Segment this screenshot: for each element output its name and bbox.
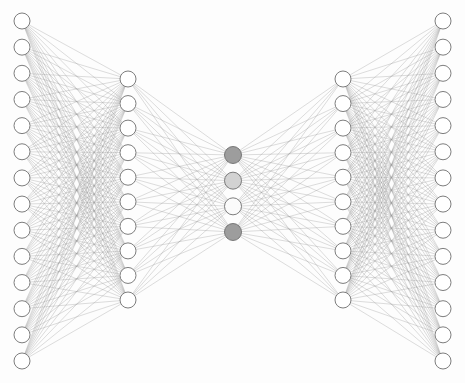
edge [128, 79, 233, 181]
node-input-layer-6 [14, 144, 30, 160]
edge [233, 206, 343, 300]
edge [128, 155, 233, 177]
edge [343, 177, 443, 308]
edge [233, 177, 343, 232]
edge [233, 153, 343, 232]
node-input-layer-11 [14, 275, 30, 291]
edge [22, 79, 128, 335]
node-output-layer-12 [435, 301, 451, 317]
edge [343, 21, 443, 251]
node-hidden-layer-2-6 [335, 194, 351, 210]
edge [233, 177, 343, 206]
edge [343, 202, 443, 335]
node-input-layer-5 [14, 118, 30, 134]
edge [233, 232, 343, 275]
node-hidden-layer-2-9 [335, 267, 351, 283]
node-hidden-layer-1-2 [120, 96, 136, 112]
node-output-layer-10 [435, 248, 451, 264]
node-hidden-layer-2-5 [335, 169, 351, 185]
edge [22, 177, 128, 178]
edge [128, 202, 233, 207]
edge [128, 104, 233, 155]
node-hidden-layer-1-4 [120, 145, 136, 161]
network-canvas [0, 0, 465, 383]
edge [233, 232, 343, 300]
edge [233, 153, 343, 207]
node-input-layer-12 [14, 301, 30, 317]
edge [233, 153, 343, 181]
edge [128, 206, 233, 300]
edge [128, 232, 233, 251]
node-input-layer-4 [14, 91, 30, 107]
node-hidden-layer-2-3 [335, 120, 351, 136]
edge [128, 232, 233, 300]
edge [233, 232, 343, 251]
edge [22, 79, 128, 99]
node-bottleneck-layer-1 [225, 147, 242, 164]
edge [233, 155, 343, 251]
node-output-layer-7 [435, 170, 451, 186]
node-output-layer-4 [435, 91, 451, 107]
edge [22, 47, 128, 128]
edge [128, 206, 233, 251]
node-input-layer-1 [14, 13, 30, 29]
edge [233, 104, 343, 155]
node-hidden-layer-1-9 [120, 267, 136, 283]
edge [343, 73, 443, 201]
edge [233, 128, 343, 181]
node-input-layer-8 [14, 196, 30, 212]
node-output-layer-3 [435, 65, 451, 81]
node-hidden-layer-1-5 [120, 169, 136, 185]
edge [128, 155, 233, 275]
node-output-layer-11 [435, 275, 451, 291]
edge [233, 79, 343, 206]
edge [22, 300, 128, 361]
edge [128, 177, 233, 232]
edge [22, 202, 128, 257]
edge [22, 152, 128, 153]
node-output-layer-6 [435, 144, 451, 160]
edge [128, 181, 233, 227]
node-output-layer-2 [435, 39, 451, 55]
node-input-layer-7 [14, 170, 30, 186]
node-output-layer-14 [435, 353, 451, 369]
edge [233, 79, 343, 181]
edge [343, 178, 443, 202]
edge [22, 177, 128, 308]
node-input-layer-3 [14, 65, 30, 81]
node-hidden-layer-1-6 [120, 194, 136, 210]
node-hidden-layer-2-1 [335, 71, 351, 87]
edge [343, 283, 443, 300]
edge [343, 300, 443, 361]
node-bottleneck-layer-3 [225, 198, 242, 215]
node-hidden-layer-1-3 [120, 120, 136, 136]
node-hidden-layer-2-2 [335, 96, 351, 112]
node-hidden-layer-1-10 [120, 292, 136, 308]
edge [128, 79, 233, 232]
node-hidden-layer-1-8 [120, 243, 136, 259]
node-bottleneck-layer-4 [225, 224, 242, 241]
node-input-layer-14 [14, 353, 30, 369]
neural-network-diagram [0, 0, 465, 383]
node-hidden-layer-1-7 [120, 218, 136, 234]
edge [22, 73, 128, 128]
edges-group [22, 21, 443, 361]
edge [233, 104, 343, 232]
edge [343, 21, 443, 153]
node-input-layer-2 [14, 39, 30, 55]
edge [343, 73, 443, 226]
edge [343, 202, 443, 257]
node-output-layer-1 [435, 13, 451, 29]
edge [22, 73, 128, 201]
edge [128, 128, 233, 155]
node-hidden-layer-2-10 [335, 292, 351, 308]
node-hidden-layer-2-8 [335, 243, 351, 259]
edge [128, 177, 233, 206]
edge [233, 155, 343, 275]
node-input-layer-10 [14, 248, 30, 264]
node-bottleneck-layer-2 [225, 172, 242, 189]
edge [128, 232, 233, 275]
node-output-layer-13 [435, 327, 451, 343]
node-hidden-layer-2-4 [335, 145, 351, 161]
edge [343, 177, 443, 178]
